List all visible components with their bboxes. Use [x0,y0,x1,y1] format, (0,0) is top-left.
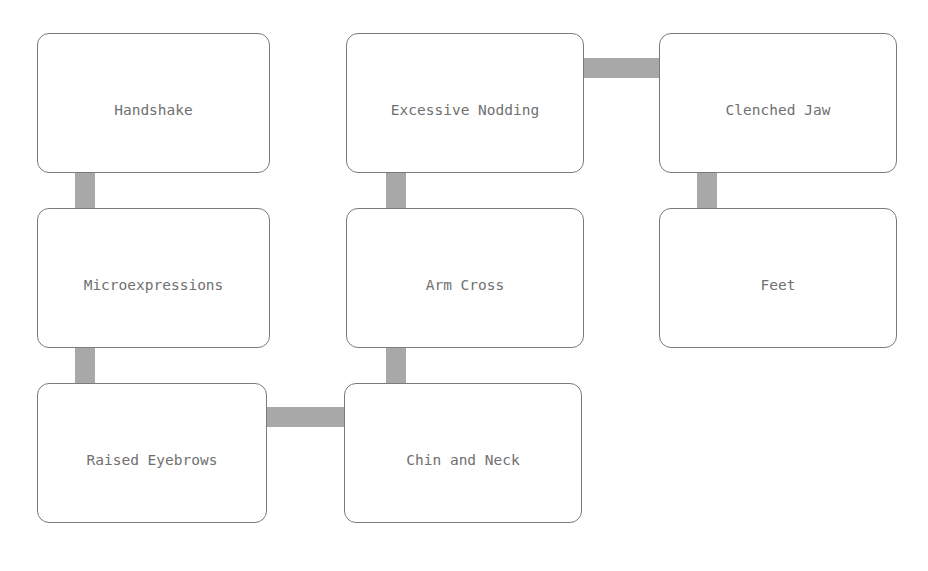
node-label: Excessive Nodding [391,102,539,118]
node-arm-cross[interactable]: Arm Cross [346,208,584,348]
node-label: Microexpressions [84,277,224,293]
node-clenched-jaw[interactable]: Clenched Jaw [659,33,897,173]
node-label: Clenched Jaw [726,102,831,118]
node-label: Feet [761,277,796,293]
node-label: Raised Eyebrows [87,452,218,468]
edge-handshake-microexpressions [75,172,95,208]
edge-chin-and-neck-arm-cross [386,347,406,383]
node-microexpressions[interactable]: Microexpressions [37,208,270,348]
node-raised-eyebrows[interactable]: Raised Eyebrows [37,383,267,523]
edge-arm-cross-excessive-nodding [386,172,406,208]
node-chin-and-neck[interactable]: Chin and Neck [344,383,582,523]
edge-microexpressions-raised-eyebrows [75,347,95,383]
node-label: Arm Cross [426,277,505,293]
node-excessive-nodding[interactable]: Excessive Nodding [346,33,584,173]
edge-raised-eyebrows-chin-and-neck [266,407,346,427]
edge-excessive-nodding-clenched-jaw [583,58,661,78]
node-label: Chin and Neck [406,452,520,468]
edge-clenched-jaw-feet [697,172,717,208]
node-label: Handshake [114,102,193,118]
node-handshake[interactable]: Handshake [37,33,270,173]
node-feet[interactable]: Feet [659,208,897,348]
